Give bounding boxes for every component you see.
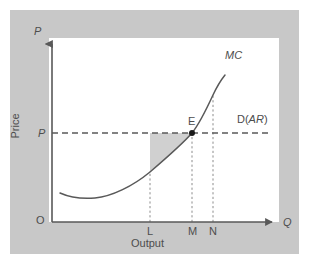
figure-container: P Q O Price Output P L M N MC D(AR) E (0, 0, 309, 264)
x-tick-label-n: N (209, 226, 217, 237)
demand-ar-label-ar: AR (249, 113, 264, 125)
demand-ar-label-close: ) (264, 113, 268, 125)
origin-label: O (36, 215, 45, 226)
mc-curve (60, 75, 225, 198)
equilibrium-point-e (189, 130, 195, 136)
plot-svg (0, 0, 309, 264)
x-axis-label: Output (131, 238, 164, 249)
x-tick-label-l: L (147, 226, 153, 237)
mc-curve-label: MC (225, 50, 242, 61)
demand-ar-label: D(AR) (237, 114, 268, 125)
x-axis-title: Q (283, 217, 292, 228)
demand-ar-label-d: D( (237, 113, 249, 125)
y-tick-label-p: P (38, 128, 45, 139)
equilibrium-label-e: E (188, 116, 195, 127)
y-axis-title: P (34, 26, 41, 37)
x-tick-label-m: M (188, 226, 197, 237)
y-axis-label: Price (9, 103, 21, 149)
